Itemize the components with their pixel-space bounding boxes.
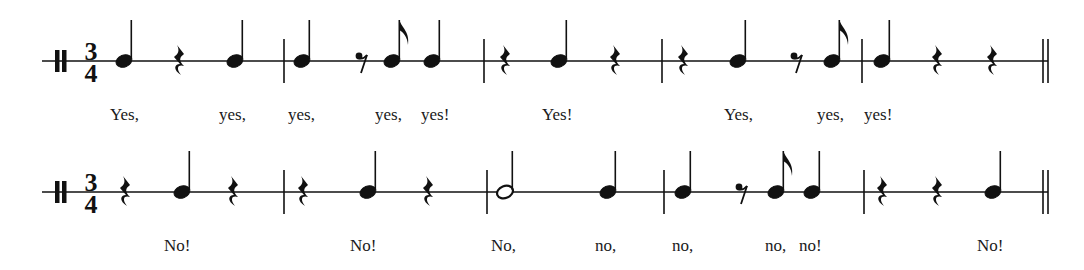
lyric-word: No! bbox=[977, 237, 1003, 254]
eighth-note-icon bbox=[766, 151, 792, 201]
lyric-word: Yes! bbox=[542, 106, 572, 123]
quarter-note-icon bbox=[728, 20, 748, 70]
quarter-rest-icon bbox=[500, 45, 510, 75]
eighth-rest-icon bbox=[356, 53, 367, 73]
quarter-note-icon bbox=[802, 151, 822, 201]
quarter-rest-icon bbox=[932, 176, 942, 206]
quarter-rest-icon bbox=[610, 45, 620, 75]
eighth-rest-icon bbox=[736, 184, 747, 204]
lyric-word: no! bbox=[799, 237, 822, 254]
half-note-icon bbox=[495, 151, 515, 201]
quarter-rest-icon bbox=[298, 176, 308, 206]
eighth-note-icon bbox=[822, 20, 848, 70]
lyric-word: Yes, bbox=[110, 106, 139, 123]
quarter-note-icon bbox=[673, 151, 693, 201]
quarter-note-icon bbox=[598, 151, 618, 201]
lyric-word: No, bbox=[491, 237, 516, 254]
quarter-rest-icon bbox=[678, 45, 688, 75]
svg-text:4: 4 bbox=[85, 59, 98, 88]
time-signature: 34 bbox=[85, 168, 98, 219]
lyric-word: yes, bbox=[817, 106, 844, 123]
lyric-word: yes, bbox=[288, 106, 315, 123]
lyric-word: yes, bbox=[219, 106, 246, 123]
lyric-word: no, bbox=[765, 237, 786, 254]
rhythm-score: 3434 bbox=[0, 0, 1084, 270]
lyric-word: yes! bbox=[421, 106, 449, 123]
quarter-rest-icon bbox=[228, 176, 238, 206]
eighth-rest-icon bbox=[791, 53, 802, 73]
quarter-note-icon bbox=[172, 151, 192, 201]
lyric-word: yes, bbox=[375, 106, 402, 123]
quarter-note-icon bbox=[114, 20, 134, 70]
quarter-rest-icon bbox=[120, 176, 130, 206]
eighth-note-icon bbox=[382, 20, 408, 70]
quarter-note-icon bbox=[872, 20, 892, 70]
svg-text:4: 4 bbox=[85, 190, 98, 219]
lyric-word: yes! bbox=[864, 106, 892, 123]
lyric-word: No! bbox=[350, 237, 376, 254]
staff-no-line: 34 bbox=[42, 151, 1048, 219]
time-signature: 34 bbox=[85, 37, 98, 88]
quarter-note-icon bbox=[225, 20, 245, 70]
quarter-note-icon bbox=[292, 20, 312, 70]
staff-yes-line: 34 bbox=[42, 20, 1048, 88]
quarter-rest-icon bbox=[877, 176, 887, 206]
lyric-word: No! bbox=[164, 237, 190, 254]
quarter-note-icon bbox=[549, 20, 569, 70]
quarter-note-icon bbox=[358, 151, 378, 201]
quarter-note-icon bbox=[422, 20, 442, 70]
lyric-word: no, bbox=[672, 237, 693, 254]
quarter-rest-icon bbox=[932, 45, 942, 75]
lyric-word: no, bbox=[595, 237, 616, 254]
quarter-rest-icon bbox=[987, 45, 997, 75]
quarter-note-icon bbox=[983, 151, 1003, 201]
lyric-word: Yes, bbox=[724, 106, 753, 123]
quarter-rest-icon bbox=[174, 45, 184, 75]
quarter-rest-icon bbox=[423, 176, 433, 206]
